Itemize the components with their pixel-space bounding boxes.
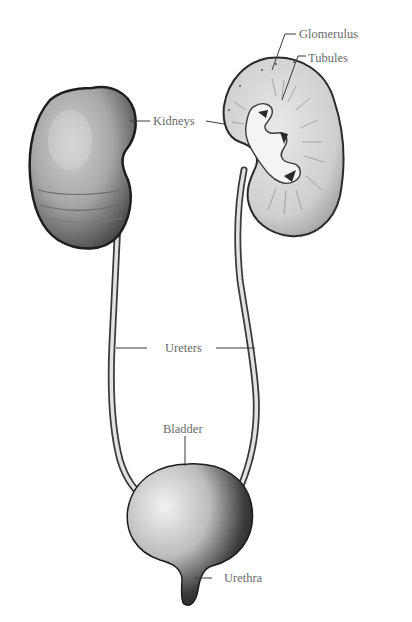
kidneys-leader-right bbox=[206, 121, 224, 124]
right-ureter bbox=[238, 170, 256, 488]
label-kidneys: Kidneys bbox=[153, 115, 195, 128]
left-ureter bbox=[111, 220, 148, 500]
left-kidney bbox=[30, 87, 136, 249]
label-bladder: Bladder bbox=[163, 423, 203, 436]
label-urethra: Urethra bbox=[224, 572, 262, 585]
label-ureters: Ureters bbox=[165, 342, 202, 355]
label-tubules: Tubules bbox=[308, 52, 348, 65]
label-glomerulus: Glomerulus bbox=[299, 28, 358, 41]
urinary-system-illustration bbox=[0, 0, 412, 622]
